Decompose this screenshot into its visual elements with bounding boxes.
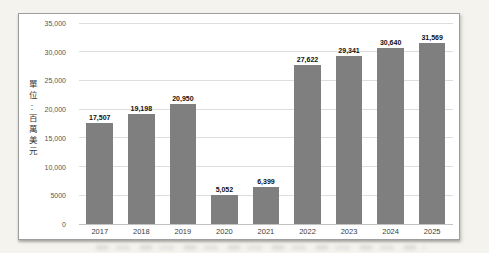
bar-2022 [294, 65, 321, 224]
y-axis-ticks: 0500010,00015,00020,00025,00030,00035,00… [19, 23, 73, 224]
y-axis-tick-label: 0 [19, 221, 73, 228]
bar-value-label: 27,622 [297, 56, 318, 63]
bar-2017 [86, 123, 113, 224]
y-axis-tick-label: 25,000 [19, 77, 73, 84]
bar-value-label: 6,399 [257, 178, 275, 185]
x-axis-label: 2023 [328, 227, 370, 239]
bar-value-label: 31,569 [421, 34, 442, 41]
bar-group: 29,341 [328, 23, 370, 224]
bar-value-label: 29,341 [338, 47, 359, 54]
bar-2021 [253, 187, 280, 224]
bar-group: 27,622 [287, 23, 329, 224]
page-background: { "chart_data": { "type": "bar", "catego… [0, 0, 489, 253]
bar-value-label: 30,640 [380, 39, 401, 46]
bar-2023 [336, 56, 363, 225]
bar-2024 [377, 48, 404, 224]
x-axis-label: 2024 [370, 227, 412, 239]
bar-group: 20,950 [162, 23, 204, 224]
x-axis-label: 2022 [287, 227, 329, 239]
bars-row: 17,50719,19820,9505,0526,39927,62229,341… [79, 23, 453, 224]
bar-2019 [170, 104, 197, 224]
bar-group: 17,507 [79, 23, 121, 224]
x-axis-label: 2017 [79, 227, 121, 239]
plot-area: 17,50719,19820,9505,0526,39927,62229,341… [79, 23, 453, 224]
bar-group: 6,399 [245, 23, 287, 224]
x-axis-label: 2020 [204, 227, 246, 239]
y-axis-tick-label: 35,000 [19, 20, 73, 27]
bar-group: 31,569 [411, 23, 453, 224]
y-axis-tick-label: 15,000 [19, 134, 73, 141]
bar-chart: 單位:百萬美元 0500010,00015,00020,00025,00030,… [18, 13, 460, 240]
x-axis-label: 2025 [411, 227, 453, 239]
y-axis-tick-label: 20,000 [19, 106, 73, 113]
x-axis-labels: 201720182019202020212022202320242025 [79, 227, 453, 239]
bar-group: 19,198 [121, 23, 163, 224]
y-axis-tick-label: 5000 [19, 192, 73, 199]
faint-print-artifact [96, 245, 426, 250]
bar-value-label: 17,507 [89, 114, 110, 121]
bar-value-label: 19,198 [131, 105, 152, 112]
y-axis-tick-label: 10,000 [19, 163, 73, 170]
bar-2018 [128, 114, 155, 224]
bar-value-label: 20,950 [172, 95, 193, 102]
y-axis-tick-label: 30,000 [19, 48, 73, 55]
bar-group: 5,052 [204, 23, 246, 224]
bar-2025 [419, 43, 446, 224]
x-axis-label: 2021 [245, 227, 287, 239]
x-axis-label: 2019 [162, 227, 204, 239]
bar-group: 30,640 [370, 23, 412, 224]
x-axis-label: 2018 [121, 227, 163, 239]
bar-value-label: 5,052 [216, 186, 234, 193]
bar-2020 [211, 195, 238, 224]
